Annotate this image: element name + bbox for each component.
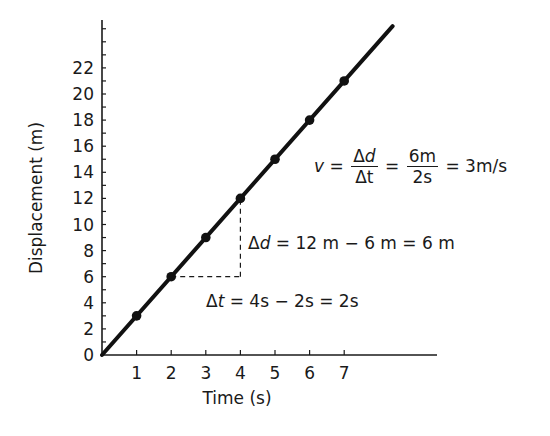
data-point	[166, 272, 176, 282]
x-tick-label: 7	[339, 363, 350, 383]
delta-t-equation: Δt = 4s − 2s = 2s	[206, 291, 359, 311]
x-tick-label: 6	[304, 363, 315, 383]
d-variable: d	[260, 233, 271, 253]
velocity-symbol: v	[314, 156, 324, 176]
y-tick-label: 4	[83, 293, 94, 313]
x-tick-labels: 1234567	[131, 363, 349, 383]
x-tick-label: 1	[131, 363, 142, 383]
y-tick-label: 10	[72, 215, 94, 235]
delta-symbol: Δ	[248, 233, 260, 253]
velocity-result: = 3m/s	[445, 156, 507, 176]
y-tick-labels: 0246810121416182022	[72, 58, 94, 365]
x-tick-label: 4	[235, 363, 246, 383]
y-axis-title: Displacement (m)	[26, 122, 46, 274]
y-tick-label: 22	[72, 58, 94, 78]
data-point	[236, 194, 246, 204]
data-point	[270, 154, 280, 164]
y-tick-label: 20	[72, 84, 94, 104]
y-tick-label: 6	[83, 267, 94, 287]
x-tick-label: 3	[200, 363, 211, 383]
fraction-numerator: 6m	[407, 146, 438, 167]
data-point	[201, 233, 211, 243]
fraction-denominator: Δt	[351, 167, 377, 187]
data-point	[132, 311, 142, 321]
delta-symbol: Δ	[353, 146, 365, 166]
y-tick-label: 12	[72, 188, 94, 208]
x-axis-title: Time (s)	[201, 388, 271, 408]
equals-sign: =	[385, 156, 399, 176]
delta-d-expression: = 12 m − 6 m = 6 m	[270, 233, 454, 253]
y-tick-label: 18	[72, 110, 94, 130]
velocity-equation: v = Δd Δt = 6m 2s = 3m/s	[314, 146, 507, 187]
x-tick-label: 5	[270, 363, 281, 383]
delta-d-equation: Δd = 12 m − 6 m = 6 m	[248, 233, 455, 253]
y-tick-label: 8	[83, 241, 94, 261]
data-point	[305, 115, 315, 125]
delta-symbol: Δ	[206, 291, 218, 311]
x-tick-label: 2	[166, 363, 177, 383]
displacement-time-chart: 0246810121416182022 1234567 Time (s) Dis…	[0, 0, 550, 436]
delta-t-expression: = 4s − 2s = 2s	[224, 291, 358, 311]
y-tick-label: 16	[72, 136, 94, 156]
data-point	[339, 76, 349, 86]
delta-d-over-delta-t-fraction: Δd Δt	[351, 146, 377, 187]
six-m-over-two-s-fraction: 6m 2s	[407, 146, 438, 187]
fraction-numerator: Δd	[351, 146, 377, 167]
y-tick-label: 2	[83, 319, 94, 339]
fraction-denominator: 2s	[407, 167, 438, 187]
y-tick-label: 0	[83, 345, 94, 365]
y-tick-label: 14	[72, 162, 94, 182]
d-variable: d	[365, 146, 376, 166]
equals-sign: =	[329, 156, 343, 176]
